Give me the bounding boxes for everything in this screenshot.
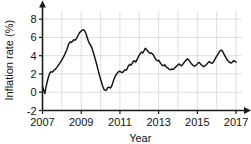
x-tick-label: 2011	[108, 116, 132, 128]
x-axis-label: Year	[129, 132, 152, 144]
vertical-gridlines	[62, 11, 236, 111]
y-tick-label: 6	[30, 31, 36, 43]
y-tick-label: -2	[27, 105, 37, 117]
x-axis-tick-labels: 200720092011201320152017	[30, 116, 248, 128]
horizontal-gridlines	[43, 19, 243, 92]
x-tick-label: 2017	[224, 116, 248, 128]
y-tick-label: 8	[30, 13, 36, 25]
y-tick-label: 2	[30, 68, 36, 80]
y-tick-label: 0	[30, 86, 36, 98]
y-axis-tick-labels: -202468	[27, 13, 37, 116]
x-tick-label: 2015	[185, 116, 209, 128]
y-axis-label: Inflation rate (%)	[3, 20, 15, 101]
inflation-rate-chart: 200720092011201320152017 -202468 Year In…	[0, 0, 251, 144]
chart-canvas: 200720092011201320152017 -202468 Year In…	[0, 0, 251, 144]
x-tick-label: 2009	[69, 116, 93, 128]
x-tick-label: 2013	[146, 116, 170, 128]
y-tick-label: 4	[30, 50, 36, 62]
axes	[39, 1, 251, 114]
x-tick-label: 2007	[30, 116, 54, 128]
